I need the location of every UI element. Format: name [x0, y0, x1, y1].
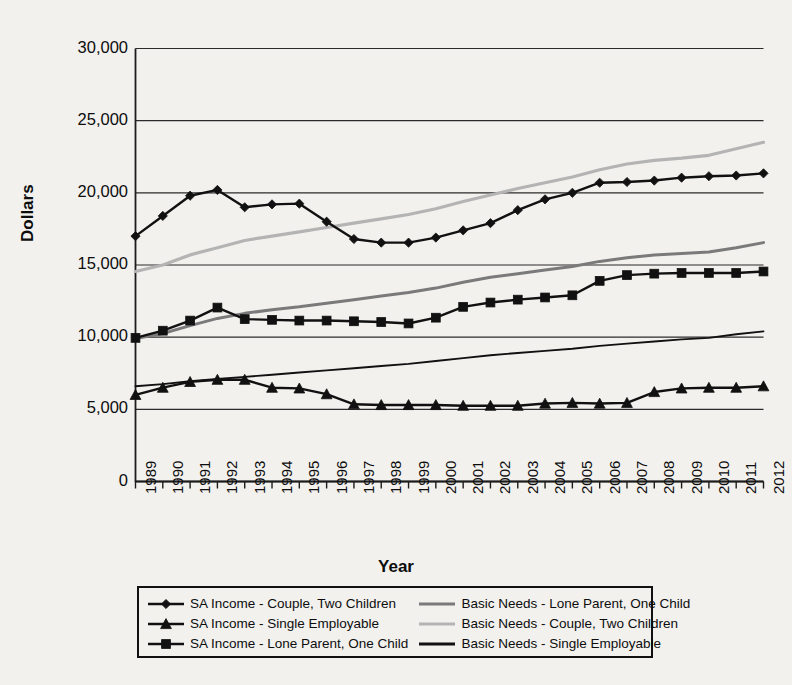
legend-column-left: SA Income - Couple, Two ChildrenSA Incom… [139, 588, 408, 656]
x-tick-label: 2004 [551, 460, 568, 493]
legend-label: Basic Needs - Couple, Two Children [461, 616, 678, 632]
x-tick-label: 1999 [415, 460, 432, 493]
data-point-square [213, 303, 222, 312]
data-point-square [240, 315, 249, 324]
data-point-square [568, 291, 577, 300]
line-square-marker-icon [147, 636, 185, 652]
data-point-square [650, 269, 659, 278]
data-point-square [295, 316, 304, 325]
data-point-diamond [650, 176, 659, 185]
data-point-diamond [431, 233, 440, 242]
data-point-square [513, 295, 522, 304]
data-point-diamond [513, 206, 522, 215]
series-line [136, 331, 764, 386]
data-point-diamond [267, 200, 276, 209]
data-point-square [350, 317, 359, 326]
legend-entry: Basic Needs - Single Employable [418, 634, 690, 653]
data-point-diamond [732, 171, 741, 180]
data-point-diamond [404, 238, 413, 247]
data-point-diamond [677, 173, 686, 182]
data-point-square [162, 639, 171, 648]
data-point-square [486, 298, 495, 307]
x-tick-label: 1989 [142, 460, 159, 493]
chart-figure: Dollars 30,00025,00020,00015,00010,0005,… [0, 0, 792, 685]
series-line [136, 173, 764, 242]
legend-label: SA Income - Couple, Two Children [190, 596, 396, 612]
series-5 [136, 331, 764, 386]
data-point-square [268, 315, 277, 324]
x-tick-label: 2005 [578, 460, 595, 493]
x-tick-label: 1992 [223, 460, 240, 493]
series-line [136, 243, 764, 339]
x-tick-label: 2003 [524, 460, 541, 493]
line-square-marker-icon [147, 636, 185, 652]
x-tick-label: 2002 [496, 460, 513, 493]
x-tick-label: 2006 [606, 460, 623, 493]
x-tick-label: 2009 [688, 460, 705, 493]
data-point-diamond [377, 238, 386, 247]
x-tick-label: 1998 [387, 460, 404, 493]
line-medium-gray-icon [418, 596, 456, 612]
data-point-square [677, 269, 686, 278]
data-point-square [759, 267, 768, 276]
data-point-square [404, 319, 413, 328]
series-line [136, 142, 764, 271]
data-point-square [322, 316, 331, 325]
line-light-gray-icon [418, 616, 456, 632]
line-diamond-marker-icon [147, 596, 185, 612]
x-tick-label: 2010 [715, 460, 732, 493]
legend-entry: SA Income - Single Employable [147, 614, 408, 633]
line-black-thin-icon [418, 636, 456, 652]
line-triangle-marker-icon [147, 616, 185, 632]
x-tick-label: 2007 [633, 460, 650, 493]
data-point-square [377, 318, 386, 327]
x-tick-label: 2008 [660, 460, 677, 493]
legend-label: Basic Needs - Lone Parent, One Child [461, 596, 690, 612]
x-tick-label: 1993 [251, 460, 268, 493]
x-tick-label: 1994 [278, 460, 295, 493]
x-tick-label: 2001 [469, 460, 486, 493]
data-point-square [459, 302, 468, 311]
x-tick-label: 1990 [169, 460, 186, 493]
line-diamond-marker-icon [147, 596, 185, 612]
line-black-thin-icon [418, 636, 456, 652]
series-3 [136, 243, 764, 339]
series-1 [130, 374, 769, 410]
x-axis-title: Year [0, 557, 792, 577]
x-tick-label: 1991 [196, 460, 213, 493]
legend-label: SA Income - Single Employable [190, 616, 379, 632]
data-point-square [131, 333, 140, 342]
data-point-diamond [622, 177, 631, 186]
data-point-diamond [161, 599, 170, 608]
data-point-square [541, 293, 550, 302]
data-point-square [186, 316, 195, 325]
data-point-diamond [486, 219, 495, 228]
data-point-diamond [595, 178, 604, 187]
x-tick-label: 2000 [442, 460, 459, 493]
legend-label: SA Income - Lone Parent, One Child [190, 636, 408, 652]
series-0 [131, 169, 768, 247]
x-tick-label: 2011 [742, 461, 759, 493]
legend-entry: SA Income - Couple, Two Children [147, 594, 408, 613]
chart-legend: SA Income - Couple, Two ChildrenSA Incom… [137, 586, 653, 658]
data-point-diamond [540, 195, 549, 204]
data-point-diamond [759, 169, 768, 178]
line-triangle-marker-icon [147, 616, 185, 632]
x-tick-label: 1997 [360, 460, 377, 493]
series-4 [136, 142, 764, 271]
x-tick-label: 1996 [333, 460, 350, 493]
data-point-square [623, 271, 632, 280]
legend-column-right: Basic Needs - Lone Parent, One ChildBasi… [408, 588, 690, 656]
x-tick-label: 1995 [305, 460, 322, 493]
line-medium-gray-icon [418, 596, 456, 612]
data-point-square [732, 269, 741, 278]
data-point-diamond [568, 188, 577, 197]
data-point-square [595, 276, 604, 285]
series-2 [131, 267, 768, 342]
line-light-gray-icon [418, 616, 456, 632]
data-point-square [431, 313, 440, 322]
x-tick-label: 2012 [770, 460, 787, 493]
legend-entry: Basic Needs - Couple, Two Children [418, 614, 690, 633]
legend-label: Basic Needs - Single Employable [461, 636, 661, 652]
data-point-diamond [704, 172, 713, 181]
